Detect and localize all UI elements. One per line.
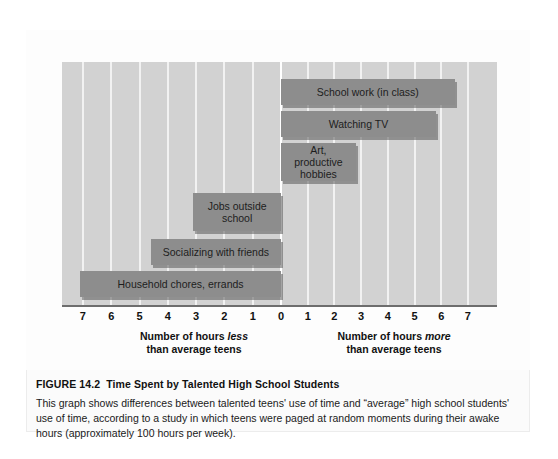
- gridline-minus2: [223, 62, 225, 305]
- figure-caption-title: FIGURE 14.2 Time Spent by Talented High …: [36, 378, 522, 390]
- bar-label: Watching TV: [325, 118, 393, 130]
- bar-watching-tv[interactable]: Watching TV: [281, 111, 436, 137]
- axis-caption-right-line1: Number of hours more: [337, 330, 450, 342]
- gridline-minus5: [139, 62, 141, 305]
- figure-title: Time Spent by Talented High School Stude…: [106, 378, 339, 390]
- x-tick-minus6: 6: [108, 310, 114, 322]
- figure-page: School work (in class)Watching TVArt, pr…: [0, 0, 558, 459]
- figure-number: FIGURE 14.2: [36, 378, 100, 390]
- axis-caption-left-pre: Number of hours: [140, 330, 228, 342]
- bar-school-work-in-class[interactable]: School work (in class): [281, 79, 455, 105]
- bar-art-productive-hobbies[interactable]: Art, productive hobbies: [281, 143, 356, 181]
- x-tick-plus5: 5: [411, 310, 417, 322]
- axis-caption-right-line2: than average teens: [346, 343, 441, 355]
- x-tick-minus5: 5: [136, 310, 142, 322]
- axis-caption-right-pre: Number of hours: [337, 330, 425, 342]
- axis-caption-right: Number of hours more than average teens: [294, 330, 494, 356]
- bar-label: Socializing with friends: [159, 246, 273, 258]
- x-tick-plus0: 0: [278, 310, 284, 322]
- x-tick-minus3: 3: [193, 310, 199, 322]
- axis-caption-right-emphasis: more: [425, 330, 451, 342]
- x-tick-plus7: 7: [465, 310, 471, 322]
- bar-label: Art, productive hobbies: [281, 144, 356, 180]
- bar-label: Household chores, errands: [113, 278, 247, 290]
- gridline-minus6: [110, 62, 112, 305]
- x-tick-plus3: 3: [358, 310, 364, 322]
- chart-plot-area: School work (in class)Watching TVArt, pr…: [62, 62, 497, 305]
- gridline-minus7: [82, 62, 84, 305]
- x-tick-plus4: 4: [385, 310, 391, 322]
- figure-caption-body: This graph shows differences between tal…: [36, 396, 520, 441]
- axis-caption-left-line2: than average teens: [146, 343, 241, 355]
- bar-socializing-with-friends[interactable]: Socializing with friends: [151, 239, 281, 265]
- x-tick-plus1: 1: [305, 310, 311, 322]
- gridline-minus1: [252, 62, 254, 305]
- x-tick-minus7: 7: [80, 310, 86, 322]
- bar-label: School work (in class): [313, 86, 423, 98]
- x-tick-minus2: 2: [221, 310, 227, 322]
- gridline-minus3: [195, 62, 197, 305]
- axis-caption-left-line1: Number of hours less: [140, 330, 248, 342]
- bar-jobs-outside-school[interactable]: Jobs outside school: [193, 193, 281, 231]
- gridline-plus7: [467, 62, 469, 305]
- x-tick-plus6: 6: [438, 310, 444, 322]
- axis-caption-left-emphasis: less: [228, 330, 248, 342]
- bar-label: Jobs outside school: [204, 200, 271, 224]
- x-tick-minus4: 4: [165, 310, 171, 322]
- x-tick-plus2: 2: [331, 310, 337, 322]
- x-axis-line: [62, 305, 497, 307]
- gridline-minus4: [167, 62, 169, 305]
- x-tick-minus1: 1: [250, 310, 256, 322]
- axis-caption-left: Number of hours less than average teens: [94, 330, 294, 356]
- bar-household-chores-errands[interactable]: Household chores, errands: [80, 271, 281, 297]
- figure-caption: FIGURE 14.2 Time Spent by Talented High …: [36, 378, 522, 441]
- chart-block: School work (in class)Watching TVArt, pr…: [26, 30, 530, 370]
